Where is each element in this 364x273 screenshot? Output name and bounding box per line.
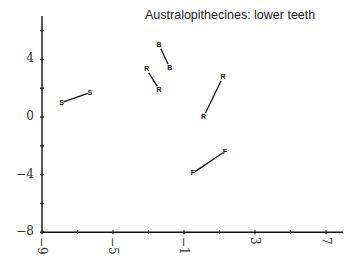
scatter-chart: Australopithecines: lower teeth 40−4−8−9… <box>0 0 364 273</box>
data-point-marker: B <box>157 41 162 49</box>
data-point-marker: F <box>191 169 195 177</box>
x-tick-label: 7 <box>319 237 333 245</box>
data-point-marker: R <box>201 113 206 121</box>
x-tick-label: −1 <box>177 237 191 255</box>
x-tick-label: −5 <box>106 237 120 255</box>
data-point-marker: R <box>221 73 226 81</box>
y-tick-label: −4 <box>10 167 34 181</box>
data-point-marker: F <box>223 148 227 156</box>
data-point-marker: B <box>167 64 172 72</box>
series-segment <box>193 152 225 174</box>
x-tick-label: −9 <box>35 237 49 255</box>
data-point-marker: R <box>157 86 162 94</box>
series-segment <box>62 93 90 103</box>
data-point-marker: S <box>88 89 93 97</box>
y-tick-label: 4 <box>10 51 34 65</box>
y-tick-label: 0 <box>10 109 34 123</box>
x-tick-label: 3 <box>248 237 262 245</box>
y-tick-label: −8 <box>10 224 34 238</box>
data-point-marker: S <box>59 99 64 107</box>
series-segment <box>204 77 224 117</box>
data-point-marker: R <box>144 65 149 73</box>
plot-area <box>0 0 364 273</box>
